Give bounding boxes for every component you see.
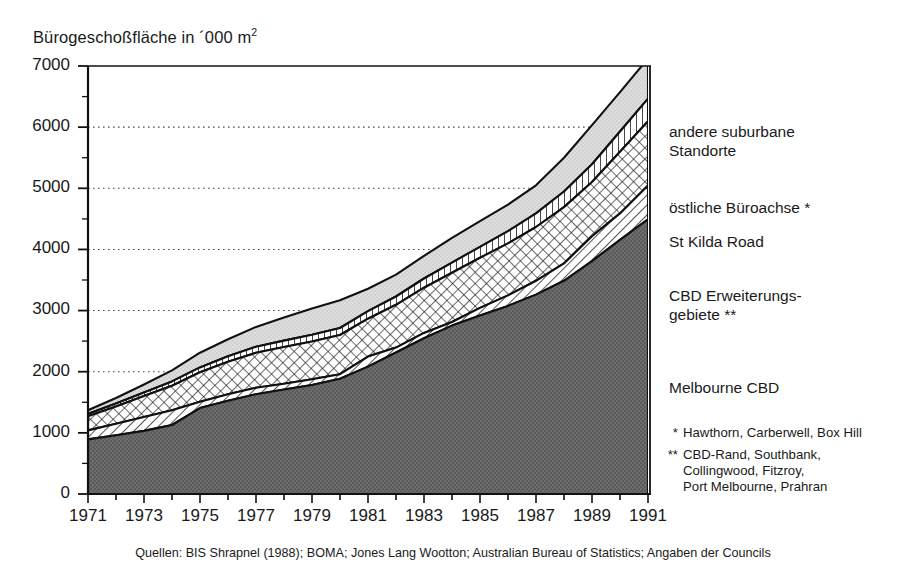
y-tick-label-0: 0 — [4, 483, 70, 503]
legend-label-andere-suburbane: andere suburbane Standorte — [669, 122, 795, 160]
x-tick-label-1983: 1983 — [394, 506, 454, 526]
x-tick-label-1979: 1979 — [282, 506, 342, 526]
x-tick-label-1989: 1989 — [562, 506, 622, 526]
footnote-text-single: Hawthorn, Carberwell, Box Hill — [683, 425, 862, 441]
x-tick-label-1991: 1991 — [618, 506, 678, 526]
x-tick-label-1985: 1985 — [450, 506, 510, 526]
y-tick-label-7000: 7000 — [4, 55, 70, 75]
y-tick-label-1000: 1000 — [4, 422, 70, 442]
legend-label-melbourne-cbd: Melbourne CBD — [669, 378, 779, 397]
area-bands — [88, 59, 648, 495]
y-tick-label-3000: 3000 — [4, 299, 70, 319]
legend-label-oestliche-buroachse: östliche Büroachse * — [669, 198, 810, 217]
chart-figure: Bürogeschoßfläche in ´000 m2 — [0, 0, 906, 578]
footnote-mark-double: ** — [656, 447, 678, 462]
y-tick-label-6000: 6000 — [4, 116, 70, 136]
y-tick-label-5000: 5000 — [4, 177, 70, 197]
x-ticks — [88, 494, 648, 503]
x-tick-label-1987: 1987 — [506, 506, 566, 526]
x-tick-label-1977: 1977 — [226, 506, 286, 526]
y-tick-label-2000: 2000 — [4, 361, 70, 381]
footnote-mark-single: * — [656, 425, 678, 440]
legend-label-st-kilda-road: St Kilda Road — [669, 232, 764, 251]
x-tick-label-1975: 1975 — [170, 506, 230, 526]
y-tick-label-4000: 4000 — [4, 238, 70, 258]
footnote-text-double: CBD-Rand, Southbank, Collingwood, Fitzro… — [683, 447, 827, 496]
x-tick-label-1981: 1981 — [338, 506, 398, 526]
x-tick-label-1971: 1971 — [58, 506, 118, 526]
legend-label-cbd-erweiterungsgebiete: CBD Erweiterungs- gebiete ** — [669, 286, 802, 324]
source-note: Quellen: BIS Shrapnel (1988); BOMA; Jone… — [0, 546, 906, 560]
x-tick-label-1973: 1973 — [114, 506, 174, 526]
